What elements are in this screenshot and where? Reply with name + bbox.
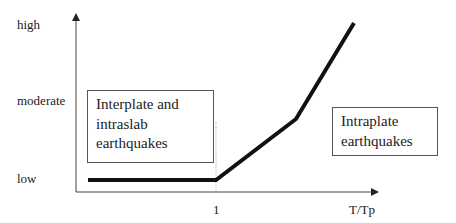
annotation-box-intraplate: Intraplate earthquakes [332, 107, 438, 156]
x-axis-arrow-icon [371, 188, 379, 196]
annotation-line: Interplate and [96, 95, 205, 115]
y-label-moderate: moderate [17, 94, 65, 107]
x-axis-label: T/Tp [349, 203, 375, 216]
annotation-line: Intraplate [341, 112, 429, 132]
y-label-high: high [17, 18, 40, 31]
annotation-line: earthquakes [341, 132, 429, 152]
annotation-line: earthquakes [96, 134, 205, 154]
y-axis-arrow-icon [72, 13, 80, 21]
y-label-low: low [17, 172, 37, 185]
annotation-line: intraslab [96, 115, 205, 135]
annotation-box-interplate: Interplate and intraslab earthquakes [87, 90, 214, 163]
x-tick-1: 1 [213, 203, 220, 216]
